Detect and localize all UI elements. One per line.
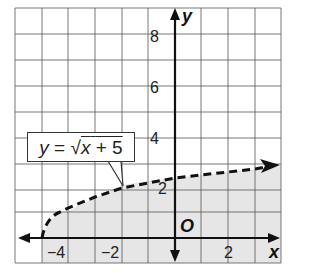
y-tick-8: 8 <box>150 28 159 45</box>
origin-label: O <box>180 216 194 236</box>
y-tick-2: 2 <box>158 180 167 197</box>
callout-y: y <box>39 137 49 158</box>
callout-eq: = √ <box>54 137 81 158</box>
y-tick-6: 6 <box>150 79 159 96</box>
callout-x: x <box>81 137 91 158</box>
y-axis-label: y <box>181 6 193 26</box>
callout-rest: + 5 <box>96 137 123 158</box>
x-tick-2: 2 <box>224 244 233 261</box>
equation-callout: y = √x + 5 <box>27 132 135 162</box>
callout-pointer <box>108 161 123 186</box>
y-tick-4: 4 <box>150 130 159 147</box>
x-axis-label: x <box>268 242 280 262</box>
x-tick-neg2: −2 <box>101 244 119 261</box>
x-tick-neg4: −4 <box>47 244 65 261</box>
